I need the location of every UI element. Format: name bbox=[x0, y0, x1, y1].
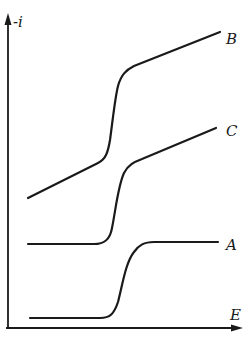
curve-a bbox=[30, 242, 218, 318]
voltammogram-diagram: -i E B C A bbox=[0, 0, 252, 343]
x-axis bbox=[6, 325, 243, 332]
x-axis-label: E bbox=[229, 306, 241, 324]
curve-c-label: C bbox=[226, 122, 238, 140]
curve-a-label: A bbox=[224, 236, 237, 254]
y-axis bbox=[5, 13, 12, 328]
y-axis-arrow-icon bbox=[5, 13, 12, 25]
curve-c bbox=[28, 128, 216, 244]
curve-b-label: B bbox=[225, 30, 237, 48]
y-axis-label: -i bbox=[13, 13, 23, 31]
x-axis-arrow-icon bbox=[231, 325, 243, 332]
